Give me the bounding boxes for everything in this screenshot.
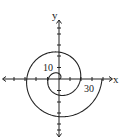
x-axis-label: x [113,73,119,85]
tick-label-y-10: 10 [43,62,53,73]
x-axis [3,77,113,82]
spiral-graph: y x 10 30 [0,0,124,139]
tick-label-x-30: 30 [84,83,94,94]
y-axis-label: y [52,9,58,21]
